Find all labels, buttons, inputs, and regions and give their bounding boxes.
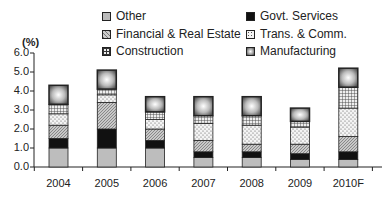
bar-segment [291,154,310,160]
legend-item-govt: Govt. Services [246,9,338,23]
bar-segment [97,148,116,167]
bar-segment [49,114,68,125]
bar-segment [242,97,261,116]
bars [49,68,358,167]
bar-segment [194,97,213,116]
bar-segment [97,70,116,89]
bar-segment [291,127,310,144]
bar-segment [339,152,358,160]
bar-segment [291,159,310,167]
x-tick-label: 2009 [278,177,322,189]
bar-segment [97,102,116,129]
bar-segment [146,120,165,130]
bar-segment [146,97,165,112]
legend-item-manufacturing: Manufacturing [246,44,336,58]
y-tick-label: 2.0 [3,122,29,134]
y-tick-label: 6.0 [3,46,29,58]
bar-segment [97,89,116,95]
bar-segment [146,129,165,140]
other-swatch-icon [102,12,111,21]
bar-segment [291,121,310,127]
bar-segment [194,158,213,168]
x-tick-label: 2010F [326,177,370,189]
y-tick-label: 0.0 [3,160,29,172]
bar-segment [194,116,213,124]
bar-segment [146,112,165,120]
y-tick-label: 5.0 [3,65,29,77]
construction-swatch-icon [102,47,111,56]
bar-segment [291,108,310,121]
bar-segment [146,148,165,167]
bar-segment [97,129,116,148]
bar-segment [49,85,68,104]
bar-segment [97,95,116,103]
x-tick-label: 2008 [230,177,274,189]
bar-segment [339,87,358,108]
bar-segment [242,152,261,158]
manufacturing-swatch-icon [246,47,255,56]
bar-segment [242,125,261,144]
bar-segment [339,159,358,167]
bar-segment [194,152,213,158]
bar-segment [291,144,310,154]
bar-segment [339,137,358,152]
bar-segment [49,139,68,149]
bar-segment [49,125,68,138]
bar-segment [49,104,68,114]
legend-item-financial: Financial & Real Estate [102,27,241,41]
bar-segment [339,108,358,137]
legend-item-trans: Trans. & Comm. [246,27,347,41]
bar-segment [242,144,261,152]
bar-segment [49,148,68,167]
x-tick-label: 2004 [37,177,81,189]
bar-segment [339,68,358,87]
x-tick-label: 2005 [85,177,129,189]
legend-item-construction: Construction [102,44,183,58]
x-tick-label: 2007 [181,177,225,189]
legend-item-other: Other [102,9,146,23]
trans-swatch-icon [246,30,255,39]
bar-segment [194,140,213,151]
bar-segment [194,123,213,140]
govt-swatch-icon [246,12,255,21]
financial-swatch-icon [102,30,111,39]
y-tick-label: 1.0 [3,141,29,153]
bar-segment [242,116,261,126]
bar-segment [242,158,261,168]
x-tick-label: 2006 [133,177,177,189]
bar-segment [146,140,165,148]
y-tick-label: 4.0 [3,84,29,96]
y-tick-label: 3.0 [3,103,29,115]
